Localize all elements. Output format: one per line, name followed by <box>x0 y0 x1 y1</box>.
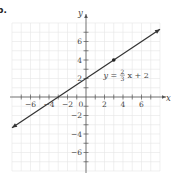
x-tick-label: −4 <box>43 100 54 109</box>
equation-suffix: x + 2 <box>127 71 148 80</box>
x-tick-label: −2 <box>62 100 73 109</box>
y-axis-arrow-icon <box>84 14 88 18</box>
y-tick-label: −4 <box>71 130 82 139</box>
x-tick-label: 6 <box>139 100 144 109</box>
y-tick-label: −6 <box>71 148 82 157</box>
equation-annotation: y = 2 3 x + 2 <box>102 68 148 83</box>
y-axis-label: y <box>77 8 83 18</box>
equation-prefix: y = <box>102 71 117 80</box>
x-tick-label: 4 <box>121 100 126 109</box>
data-point <box>112 58 116 62</box>
axes <box>10 14 166 173</box>
y-tick-label: 4 <box>77 56 82 65</box>
part-label: b. <box>0 5 7 15</box>
coordinate-plane: b. −6−4−20246−6−4−2246 x y y = 2 3 x + 2 <box>0 0 176 175</box>
line-arrow-end-icon <box>155 29 160 34</box>
x-axis-label: x <box>166 93 171 103</box>
line-arrow-start-icon <box>12 123 17 128</box>
x-tick-label: −6 <box>25 100 36 109</box>
equation-numerator: 2 <box>120 68 124 75</box>
x-tick-label: 0 <box>79 100 84 109</box>
y-tick-label: 6 <box>77 37 82 46</box>
equation-denominator: 3 <box>120 75 124 82</box>
x-tick-label: 2 <box>102 100 107 109</box>
y-tick-label: 2 <box>77 74 82 83</box>
y-tick-label: −2 <box>71 111 82 120</box>
